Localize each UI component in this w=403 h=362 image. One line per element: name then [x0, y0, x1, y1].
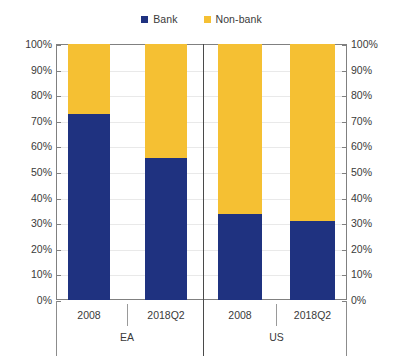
bars-layer	[56, 44, 347, 300]
bar-segment-bank[interactable]	[290, 221, 335, 300]
x-axis-region-label: US	[227, 329, 327, 358]
bar-segment-bank[interactable]	[218, 214, 262, 300]
y-axis-left: 100%90%80%70%60%50%40%30%20%10%0%	[4, 44, 52, 300]
x-axis-period-label: 2018Q2	[268, 301, 358, 329]
bar-segment-bank[interactable]	[145, 158, 187, 300]
y-axis-tick-label-left: 70%	[31, 116, 52, 127]
x-axis-separator	[203, 301, 204, 329]
bar-column[interactable]	[145, 44, 187, 300]
y-axis-tick-label-right: 50%	[351, 167, 372, 178]
bar-segment-non-bank[interactable]	[68, 44, 110, 114]
chart-legend: Bank Non-bank	[0, 12, 403, 26]
legend-item-non-bank[interactable]: Non-bank	[204, 14, 262, 25]
y-axis-tick-label-right: 80%	[351, 90, 372, 101]
square-marker-icon	[204, 16, 211, 23]
y-axis-tick-label-left: 60%	[31, 141, 52, 152]
y-axis-tick-label-left: 20%	[31, 244, 52, 255]
y-axis-tick-label-right: 60%	[351, 141, 372, 152]
x-axis-region-row: EAUS	[56, 329, 347, 356]
y-axis-tick-label-right: 10%	[351, 269, 372, 280]
y-axis-tick-label-left: 80%	[31, 90, 52, 101]
y-axis-tick-label-right: 20%	[351, 244, 372, 255]
x-axis-group-boundary	[203, 329, 204, 356]
y-axis-tick-label-left: 30%	[31, 218, 52, 229]
y-axis-tick-label-right: 70%	[351, 116, 372, 127]
bar-segment-non-bank[interactable]	[145, 44, 187, 158]
y-axis-tick-label-left: 50%	[31, 167, 52, 178]
y-axis-tick-label-left: 90%	[31, 65, 52, 76]
y-axis-tick-label-right: 90%	[351, 65, 372, 76]
x-axis-separator	[276, 304, 277, 326]
bar-segment-bank[interactable]	[68, 114, 110, 300]
x-axis-period-row: 20082018Q220082018Q2	[56, 301, 347, 329]
x-axis-group-boundary	[56, 329, 57, 356]
bar-column[interactable]	[218, 44, 262, 300]
bar-segment-non-bank[interactable]	[218, 44, 262, 214]
square-marker-icon	[141, 16, 148, 23]
bar-column[interactable]	[290, 44, 335, 300]
x-axis-boundary	[346, 301, 347, 329]
x-axis-group-boundary	[346, 329, 347, 356]
legend-label-non-bank: Non-bank	[216, 14, 262, 25]
stacked-column-chart: Bank Non-bank 100%90%80%70%60%50%40%30%2…	[0, 0, 403, 362]
legend-item-bank[interactable]: Bank	[141, 14, 177, 25]
y-axis-tick-label-right: 40%	[351, 193, 372, 204]
y-axis-tick-label-right: 30%	[351, 218, 372, 229]
bar-segment-non-bank[interactable]	[290, 44, 335, 221]
bar-column[interactable]	[68, 44, 110, 300]
x-axis-boundary	[56, 301, 57, 329]
y-axis-right: 100%90%80%70%60%50%40%30%20%10%0%	[351, 44, 399, 300]
y-axis-tick-label-left: 10%	[31, 269, 52, 280]
legend-label-bank: Bank	[153, 14, 177, 25]
x-axis-separator	[127, 304, 128, 326]
y-axis-tick-label-left: 40%	[31, 193, 52, 204]
y-axis-tick-label-left: 100%	[25, 39, 52, 50]
x-axis-region-label: EA	[77, 329, 177, 358]
y-axis-tick-label-right: 100%	[351, 39, 378, 50]
